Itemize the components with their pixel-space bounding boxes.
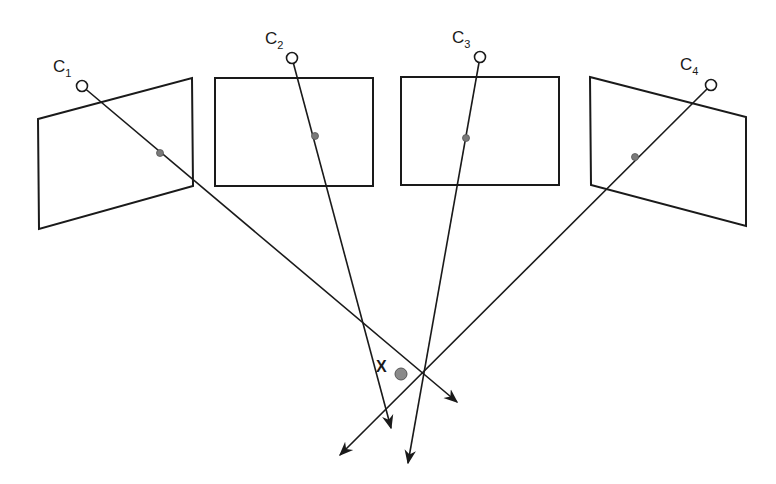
camera-label-4: C4 [680,55,698,77]
camera-label-subscript-4: 4 [692,65,698,77]
camera-center-3 [475,52,486,63]
camera-label-subscript-1: 1 [65,67,71,79]
image-plane-2 [215,78,373,186]
image-plane-4 [590,77,746,226]
camera-label-2: C2 [265,29,283,51]
image-point-4 [632,154,639,161]
image-point-2 [312,133,319,140]
image-point-1 [157,150,164,157]
camera-center-1 [77,81,88,92]
image-plane-3 [401,77,559,185]
camera-center-2 [287,53,298,64]
multi-view-triangulation-diagram: C1C2C3C4 X [0,0,776,484]
camera-label-subscript-2: 2 [277,39,283,51]
camera-label-1: C1 [53,57,71,79]
image-point-3 [463,135,470,142]
projection-ray-3 [408,57,480,463]
point-x [395,368,407,380]
camera-label-3: C3 [452,28,470,50]
camera-label-subscript-3: 3 [464,38,470,50]
camera-center-4 [706,80,717,91]
point-x-label: X [376,358,387,375]
projection-ray-4 [340,85,711,455]
image-plane-1 [38,78,193,229]
